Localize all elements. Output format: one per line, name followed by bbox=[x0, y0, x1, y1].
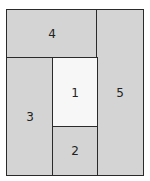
region-3: 3 bbox=[6, 57, 54, 176]
region-3-label: 3 bbox=[26, 111, 34, 123]
region-4-label: 4 bbox=[48, 28, 56, 40]
region-4: 4 bbox=[6, 9, 98, 59]
region-1: 1 bbox=[52, 57, 98, 128]
region-2-label: 2 bbox=[71, 145, 79, 157]
region-2: 2 bbox=[52, 126, 98, 176]
region-5-label: 5 bbox=[116, 87, 124, 99]
region-5: 5 bbox=[96, 9, 144, 176]
region-1-label: 1 bbox=[71, 87, 79, 99]
